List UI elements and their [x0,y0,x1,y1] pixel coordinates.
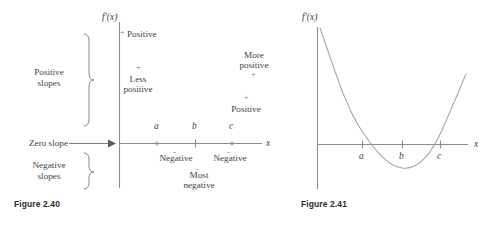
figure-2-40-x-axis-label: x [266,137,270,148]
brace-positive-slopes [84,34,94,126]
figure-2-41-graphic [290,0,499,199]
zero-slope-arrow-head [108,140,116,148]
brace-label-negative-slopes-line1: Negative [18,160,80,171]
label-negative-left: Negative [152,153,200,164]
figure-2-41-panel: f'(x) x a b c Figure 2.41 [290,0,499,227]
label-most-negative-line1: Most [175,170,223,181]
figure-2-40-y-axis-label: f'(x) [102,11,117,22]
figure-2-41-x-axis-label: x [474,138,478,149]
brace-label-positive-slopes-line1: Positive [18,67,80,78]
label-more-positive-line2: positive [230,60,278,71]
derivative-curve [320,28,466,168]
tick-label-c: c [229,121,233,131]
label-most-negative-line2: negative [175,180,223,191]
label-positive-2: Positive [222,104,270,115]
tick-label-b: b [192,121,197,131]
plus-sign-more-positive: + [251,70,256,79]
tick-label-c: c [437,151,441,161]
tick-label-a: a [154,121,159,131]
plus-sign-positive-2: + [244,93,249,102]
brace-label-negative-slopes-line2: slopes [18,171,80,182]
zero-slope-label: Zero slope [10,138,68,149]
tick-label-b: b [399,151,404,161]
brace-negative-slopes [84,153,94,189]
label-positive: Positive [127,29,157,40]
tick-label-a: a [359,151,364,161]
label-more-positive-line1: More [230,50,278,61]
figure-2-40-panel: f'(x) x + Positive + Less positive More … [0,0,290,227]
figure-2-41-caption: Figure 2.41 [301,199,347,209]
plus-sign-positive: + [120,28,125,37]
brace-label-positive-slopes-line2: slopes [18,78,80,89]
figure-2-41-y-axis-label: f'(x) [302,11,317,22]
label-negative-right: Negative [206,153,254,164]
label-less-positive-line2: positive [112,84,164,95]
label-less-positive-line1: Less [112,74,164,85]
plus-sign-less-positive: + [136,63,141,72]
figure-2-40-caption: Figure 2.40 [14,199,60,209]
